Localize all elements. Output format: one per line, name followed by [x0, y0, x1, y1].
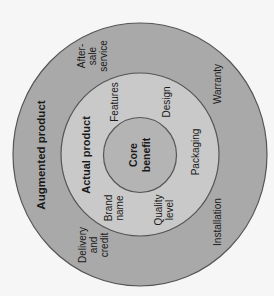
design-label: Design — [161, 86, 172, 117]
svg-text:benefit: benefit — [140, 137, 152, 172]
svg-text:credit: credit — [99, 233, 110, 258]
augmented-product-label: Augmented product — [35, 100, 47, 209]
svg-text:After-: After- — [76, 44, 87, 68]
svg-text:Quality: Quality — [153, 194, 164, 225]
svg-text:Delivery: Delivery — [77, 227, 88, 263]
product-levels-diagram: Augmented product Actual product Core be… — [0, 0, 274, 296]
svg-text:and: and — [88, 237, 99, 254]
svg-text:Core: Core — [127, 143, 139, 167]
svg-text:Brand: Brand — [103, 195, 114, 222]
packaging-label: Packaging — [190, 129, 201, 176]
warranty-label: Warranty — [212, 64, 223, 104]
svg-text:name: name — [114, 195, 125, 220]
actual-product-label: Actual product — [80, 116, 92, 194]
svg-text:level: level — [164, 200, 175, 221]
brand-name-label: Brand name — [103, 195, 125, 222]
svg-text:sale: sale — [87, 46, 98, 65]
features-label: Features — [109, 82, 120, 121]
svg-text:service: service — [98, 40, 109, 72]
installation-label: Installation — [212, 198, 223, 246]
